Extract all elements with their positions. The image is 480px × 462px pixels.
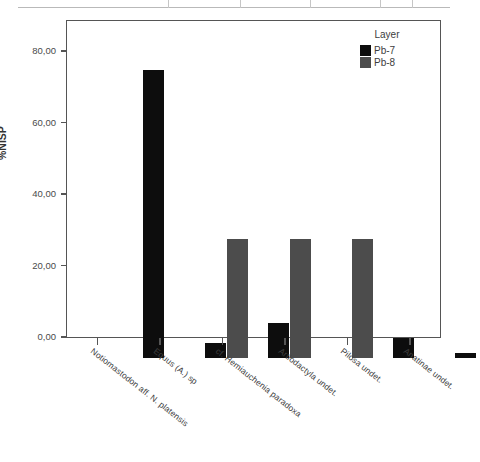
y-axis-tick-label: 0,00 xyxy=(0,331,56,342)
bars-container xyxy=(134,42,480,358)
legend-title: Layer xyxy=(344,29,430,40)
x-axis-tick-mark xyxy=(97,338,99,345)
legend-item-pb-7: Pb-7 xyxy=(344,45,430,56)
y-axis-tick-label: 80,00 xyxy=(0,45,56,56)
bar-pb-7 xyxy=(143,70,164,358)
legend-label-pb-8: Pb-8 xyxy=(374,57,395,68)
y-axis-tick-label: 60,00 xyxy=(0,117,56,128)
bar-pb-7 xyxy=(455,353,476,358)
y-axis-tick-label: 20,00 xyxy=(0,260,56,271)
x-axis-tick-mark xyxy=(222,338,224,345)
x-axis-tick-mark xyxy=(284,338,286,345)
y-axis-tick-mark xyxy=(61,265,67,267)
legend-swatch-pb-7 xyxy=(360,45,371,56)
y-axis-tick-mark xyxy=(61,336,67,338)
y-axis-title: %NISP xyxy=(0,126,8,160)
y-axis-tick-mark xyxy=(61,50,67,52)
y-axis-tick-mark xyxy=(61,193,67,195)
x-axis-tick-mark xyxy=(409,338,411,345)
legend-label-pb-7: Pb-7 xyxy=(374,45,395,56)
x-axis-category-label: Notiomastodon aff. N. platensis xyxy=(89,346,191,428)
bar-pb-8 xyxy=(227,239,248,358)
plot-area: Layer Pb-7 Pb-8 xyxy=(66,20,441,338)
y-axis-tick-label: 40,00 xyxy=(0,188,56,199)
x-axis-tick-mark xyxy=(347,338,349,345)
legend-item-pb-8: Pb-8 xyxy=(344,57,430,68)
x-axis-tick-mark xyxy=(159,338,161,345)
bar-pb-8 xyxy=(352,239,373,358)
bar-pb-8 xyxy=(290,239,311,358)
y-axis-tick-mark xyxy=(61,122,67,124)
legend: Layer Pb-7 Pb-8 xyxy=(344,29,430,69)
legend-swatch-pb-8 xyxy=(360,57,371,68)
